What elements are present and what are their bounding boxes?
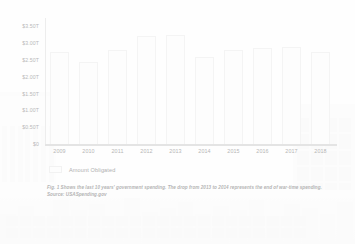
bar-2017[interactable]: [282, 47, 301, 144]
x-axis: 2009201020112012201320142015201620172018: [45, 148, 335, 154]
y-axis-tick-label: $2.50T: [22, 57, 39, 63]
bar-2009[interactable]: [50, 52, 69, 144]
bar-slot: [219, 18, 248, 144]
bar-group: [45, 18, 335, 144]
caption-source: Source: USASpending.gov: [47, 191, 333, 198]
figure-caption: Fig. 1 Shows the last 10 years' governme…: [47, 184, 333, 199]
y-axis-tick-label: $2.00T: [22, 74, 39, 80]
caption-text: Fig. 1 Shows the last 10 years' governme…: [47, 185, 322, 190]
bar-slot: [132, 18, 161, 144]
bar-slot: [306, 18, 335, 144]
bar-2011[interactable]: [108, 50, 127, 144]
bar-2012[interactable]: [137, 36, 156, 144]
chart-legend: Amount Obligated: [49, 166, 115, 173]
x-axis-tick-label: 2010: [74, 148, 103, 154]
y-axis-tick-label: $3.00T: [22, 40, 39, 46]
x-axis-tick-label: 2017: [277, 148, 306, 154]
bar-slot: [45, 18, 74, 144]
y-axis: $0$0.50T$1.00T$1.50T$2.00T$2.50T$3.00T$3…: [0, 18, 42, 144]
bar-slot: [74, 18, 103, 144]
amount-obligated-swatch: [49, 166, 62, 173]
y-axis-tick-label: $3.50T: [22, 23, 39, 29]
y-axis-tick-label: $1.00T: [22, 107, 39, 113]
x-axis-line: [45, 144, 337, 146]
bar-slot: [277, 18, 306, 144]
bar-slot: [161, 18, 190, 144]
x-axis-tick-label: 2013: [161, 148, 190, 154]
bar-2018[interactable]: [311, 52, 330, 144]
plot-area: [45, 18, 335, 144]
x-axis-tick-label: 2015: [219, 148, 248, 154]
x-axis-tick-label: 2012: [132, 148, 161, 154]
bar-2015[interactable]: [224, 50, 243, 144]
x-axis-tick-label: 2009: [45, 148, 74, 154]
bar-2013[interactable]: [166, 35, 185, 144]
x-axis-tick-label: 2014: [190, 148, 219, 154]
x-axis-tick-label: 2018: [306, 148, 335, 154]
bar-2010[interactable]: [79, 62, 98, 144]
bar-2014[interactable]: [195, 57, 214, 144]
y-axis-tick-label: $1.50T: [22, 91, 39, 97]
bar-2016[interactable]: [253, 48, 272, 144]
y-axis-tick-label: $0.50T: [22, 124, 39, 130]
x-axis-tick-label: 2011: [103, 148, 132, 154]
y-axis-tick-label: $0: [33, 141, 39, 147]
bar-slot: [248, 18, 277, 144]
bar-slot: [103, 18, 132, 144]
bar-slot: [190, 18, 219, 144]
figure-bar-chart: $0$0.50T$1.00T$1.50T$2.00T$2.50T$3.00T$3…: [0, 0, 355, 244]
x-axis-tick-label: 2016: [248, 148, 277, 154]
legend-item-label: Amount Obligated: [69, 167, 115, 173]
